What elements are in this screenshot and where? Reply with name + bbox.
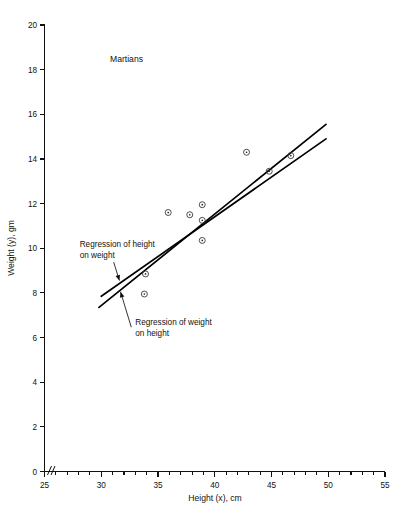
x-tick-label: 55 (380, 481, 390, 490)
x-axis-label: Height (x), cm (188, 493, 241, 503)
x-axis-break-mark-1 (48, 466, 52, 475)
y-tick-label: 8 (32, 289, 37, 298)
data-point-center (246, 151, 248, 153)
data-point-center (145, 273, 147, 275)
annotation-texts-group: Regression of heighton weightRegression … (80, 240, 213, 338)
axes-group (45, 25, 386, 475)
y-tick-label: 12 (28, 200, 38, 209)
y-tick-label: 10 (28, 244, 38, 253)
y-axis-ticks: 02468101214161820 (28, 21, 45, 477)
y-tick-label: 4 (32, 378, 37, 387)
y-tick-label: 14 (28, 155, 38, 164)
plot-title: Martians (110, 54, 143, 64)
x-axis-break-mark-2 (51, 466, 55, 475)
y-tick-label: 20 (28, 21, 38, 30)
y-tick-label: 6 (32, 334, 37, 343)
annotation-leader-lines (114, 262, 132, 327)
data-points-group (141, 149, 293, 297)
scatter-plot: 02468101214161820 25303540455055 Martian… (0, 0, 408, 519)
annotation-weight-on-height-line2: on height (135, 329, 169, 338)
regression-line (99, 124, 326, 307)
data-point-center (189, 214, 191, 216)
annotation-height-on-weight-line1: Regression of height (80, 240, 156, 249)
x-tick-label: 30 (97, 481, 107, 490)
annotation-weight-on-height-line1: Regression of weight (135, 318, 212, 327)
x-tick-label: 25 (40, 481, 50, 490)
annotation-height-on-weight-line2: on weight (80, 251, 116, 260)
y-tick-label: 0 (32, 468, 37, 477)
x-tick-label: 35 (153, 481, 163, 490)
regression-line (101, 139, 326, 296)
data-point-center (290, 155, 292, 157)
y-tick-label: 16 (28, 110, 38, 119)
figure-container: 02468101214161820 25303540455055 Martian… (0, 0, 408, 519)
y-axis-label: Weight (y), gm (6, 220, 16, 276)
data-point-center (167, 212, 169, 214)
data-point-center (201, 219, 203, 221)
annotation-height-on-weight-arrowhead (116, 275, 120, 281)
data-point-center (201, 240, 203, 242)
x-tick-label: 45 (267, 481, 277, 490)
data-point-center (144, 293, 146, 295)
y-tick-label: 2 (32, 423, 37, 432)
x-tick-label: 40 (210, 481, 220, 490)
y-tick-label: 18 (28, 66, 38, 75)
annotation-weight-on-height-leader (121, 292, 132, 327)
data-point-center (268, 170, 270, 172)
annotation-weight-on-height-arrowhead (120, 292, 124, 298)
data-point-center (201, 204, 203, 206)
regression-lines-group (99, 124, 326, 307)
x-axis-ticks: 25303540455055 (40, 472, 390, 490)
x-tick-label: 50 (324, 481, 334, 490)
